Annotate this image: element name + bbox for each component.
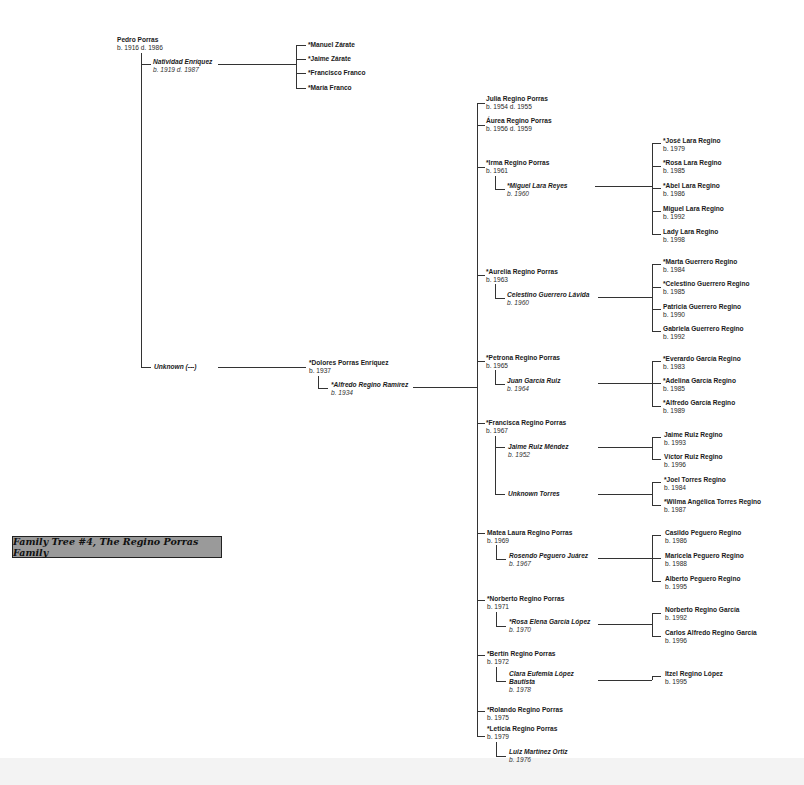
person-name: *Alfredo Regino Ramírez: [331, 381, 408, 389]
connector-line: [296, 59, 306, 60]
person-name: Alberto Peguero Regino: [665, 575, 740, 583]
spouse-juan-garcia-ruiz: Juan García Ruiz b. 1964: [507, 377, 561, 393]
connector-line: [477, 167, 485, 168]
person-dates: b. 1964: [507, 385, 561, 393]
connector-line: [495, 298, 505, 299]
person-name: *Adelina García Regino: [663, 377, 736, 385]
person-name: Gabriela Guerrero Regino: [663, 325, 744, 333]
connector-line: [652, 437, 653, 459]
connector-line: [218, 64, 296, 65]
person-name: *Wilma Angélica Torres Regino: [664, 498, 761, 506]
person-name: Unknown (---): [154, 363, 196, 371]
connector-line: [477, 600, 485, 601]
connector-line: [652, 264, 653, 331]
connector-line: [652, 676, 661, 677]
person-name: *Marta Guerrero Regino: [663, 258, 737, 266]
person-name: Rosendo Peguero Juárez: [509, 552, 588, 560]
person-marta-guerrero-regino: *Marta Guerrero Regino b. 1984: [663, 258, 737, 274]
person-name: *María Franco: [308, 84, 352, 92]
person-dates: b. 1995: [665, 583, 740, 591]
connector-line: [652, 287, 661, 288]
person-dates: b. 1996: [665, 637, 757, 645]
person-dates: b. 1967: [509, 560, 588, 568]
person-dates: b. 1983: [663, 363, 741, 371]
person-dates: b. 1976: [509, 756, 568, 764]
person-name: *Leticia Regino Porras: [487, 725, 557, 733]
person-name: *Celestino Guerrero Regino: [663, 280, 749, 288]
child-jaime-zarate: *Jaime Zárate: [308, 55, 351, 63]
person-dates: b. 1984: [663, 266, 737, 274]
person-name: Luiz Martínez Ortiz: [509, 748, 568, 756]
connector-line: [296, 88, 306, 89]
connector-line: [652, 264, 661, 265]
person-dates: b. 1984: [664, 484, 726, 492]
spouse-miguel-lara-reyes: *Miguel Lara Reyes b. 1960: [507, 182, 567, 198]
connector-line: [652, 558, 661, 559]
person-name: Celestino Guerrero Lávida: [507, 291, 589, 299]
person-name: Miguel Lara Regino: [663, 205, 724, 213]
spouse-celestino-guerrero-lavida: Celestino Guerrero Lávida b. 1960: [507, 291, 589, 307]
connector-line: [595, 186, 652, 187]
connector-line: [477, 361, 485, 362]
person-name-line2: Bautista: [509, 678, 574, 686]
connector-line: [652, 459, 661, 460]
person-name: *Norberto Regino Porras: [487, 595, 564, 603]
person-dates: b. 1960: [507, 299, 589, 307]
connector-line: [652, 535, 661, 536]
person-dates: b. 1988: [665, 560, 744, 568]
person-patricia-guerrero-regino: Patricia Guerrero Regino b. 1990: [663, 303, 741, 319]
person-name: Casildo Peguero Regino: [665, 529, 741, 537]
connector-line: [477, 423, 485, 424]
connector-line: [477, 655, 485, 656]
spouse-clara-eufemia-lopez-bautista: Clara Eufemia López Bautista b. 1978: [509, 670, 574, 695]
connector-line: [496, 667, 497, 681]
connector-line: [296, 45, 306, 46]
person-dates: b. 1985: [663, 385, 736, 393]
person-name: *Manuel Zárate: [308, 41, 355, 49]
connector-line: [652, 581, 661, 582]
connector-line: [598, 680, 652, 681]
person-dates: b. 1934: [331, 389, 408, 397]
person-dates: b. 1992: [665, 614, 739, 622]
person-dates: b. 1919 d. 1987: [153, 66, 212, 74]
person-name: *Joel Torres Regino: [664, 476, 726, 484]
person-name: *Francisco Franco: [308, 69, 366, 77]
connector-line: [652, 636, 661, 637]
spouse-natividad-enriquez: Natividad Enríquez b. 1919 d. 1987: [153, 58, 212, 74]
connector-line: [652, 143, 653, 235]
connector-line: [141, 53, 142, 367]
child-maria-franco: *María Franco: [308, 84, 352, 92]
person-name: *Abel Lara Regino: [663, 182, 720, 190]
person-francisca-regino-porras: *Francisca Regino Porras b. 1967: [486, 419, 566, 435]
connector-line: [495, 436, 496, 494]
person-julia-regino-porras: Julia Regino Porras b. 1954 d. 1955: [486, 95, 548, 111]
person-dolores-porras-enriquez: *Dolores Porras Enríquez b. 1937: [309, 359, 389, 375]
person-dates: b. 1998: [663, 236, 718, 244]
spouse-unknown: Unknown (---): [154, 363, 196, 371]
connector-line: [652, 613, 653, 636]
person-name: *Rolando Regino Porras: [487, 706, 563, 714]
connector-line: [598, 558, 652, 559]
person-norberto-regino-garcia: Norberto Regino García b. 1992: [665, 606, 739, 622]
person-jose-lara-regino: *José Lara Regino b. 1979: [663, 137, 721, 153]
person-dates: b. 1952: [508, 451, 568, 459]
connector-line: [496, 612, 497, 626]
spouse-luiz-martinez-ortiz: Luiz Martínez Ortiz b. 1976: [509, 748, 568, 764]
person-norberto-regino-porras: *Norberto Regino Porras b. 1971: [487, 595, 564, 611]
person-dates: b. 1989: [663, 407, 735, 415]
person-name-line1: Clara Eufemia López: [509, 670, 574, 678]
person-dates: b. 1954 d. 1955: [486, 103, 548, 111]
person-dates: b. 1975: [487, 714, 563, 722]
person-name: Víctor Ruiz Regino: [664, 453, 723, 461]
person-name: Natividad Enríquez: [153, 58, 212, 66]
connector-line: [652, 309, 661, 310]
connector-line: [318, 388, 328, 389]
connector-line: [495, 176, 496, 189]
person-dates: b. 1986: [665, 537, 741, 545]
person-name: *Miguel Lara Reyes: [507, 182, 567, 190]
connector-line: [652, 331, 661, 332]
connector-line: [652, 406, 661, 407]
connector-line: [296, 73, 306, 74]
figure-title: Family Tree #4, The Regino Porras Family: [13, 536, 221, 558]
connector-line: [495, 284, 496, 298]
